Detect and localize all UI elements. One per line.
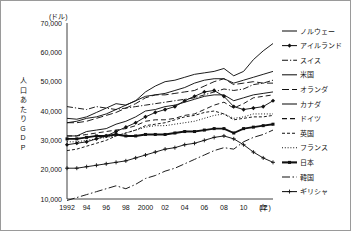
y-axis-title-char: G	[20, 125, 25, 132]
plot-area	[65, 44, 275, 201]
data-point-marker	[173, 146, 177, 150]
x-tick-label: 1992	[59, 204, 75, 211]
y-axis-title-char: た	[20, 106, 27, 113]
data-point-marker	[222, 134, 226, 138]
x-tick-label: 06	[200, 204, 208, 211]
data-point-marker	[262, 124, 265, 127]
legend-item-5[interactable]: カナダ	[282, 100, 321, 109]
y-tick-label: 40,000	[41, 108, 63, 115]
legend-label: 日本	[300, 158, 314, 167]
y-axis-tick-labels: 10,00020,00030,00040,00050,00060,00070,0…	[41, 20, 63, 203]
legend-item-4[interactable]: オランダ	[282, 85, 328, 94]
data-point-marker	[104, 162, 108, 166]
y-axis-title-char: り	[20, 115, 27, 122]
x-tick-label: 98	[122, 204, 130, 211]
legend-label: ノルウェー	[300, 28, 335, 35]
data-point-marker	[252, 126, 255, 129]
data-point-marker	[251, 106, 255, 110]
legend-item-8[interactable]: フランス	[282, 144, 328, 151]
data-point-marker	[272, 123, 275, 126]
legend-item-11[interactable]: ギリシャ	[282, 188, 328, 195]
data-point-marker	[164, 133, 167, 136]
x-tick-label: 10	[240, 204, 248, 211]
legend-label: カナダ	[300, 100, 321, 109]
legend-item-3[interactable]: 米国	[282, 70, 314, 79]
y-axis-title-char: D	[20, 134, 25, 141]
y-axis-title-char: P	[21, 144, 26, 151]
data-point-marker	[95, 134, 98, 137]
series-1	[65, 88, 275, 146]
data-point-marker	[65, 143, 69, 147]
data-point-marker	[134, 121, 138, 125]
legend: ノルウェーアイルランドスイス米国オランダカナダドイツ英国フランス日本韓国ギリシャ	[282, 28, 342, 196]
series-line	[67, 80, 273, 109]
data-point-marker	[153, 150, 157, 154]
y-axis-title: 人口あたりGDP	[20, 77, 27, 151]
data-point-marker	[261, 156, 265, 160]
data-point-marker	[94, 163, 98, 167]
legend-item-0[interactable]: ノルウェー	[282, 28, 335, 35]
legend-label: ギリシャ	[300, 188, 328, 195]
y-tick-label: 10,000	[41, 196, 63, 203]
data-point-marker	[212, 135, 216, 139]
y-axis-title-char: あ	[20, 96, 27, 103]
data-point-marker	[75, 137, 78, 140]
legend-label: 英国	[300, 129, 314, 138]
axis-lines	[67, 23, 273, 199]
data-point-marker	[114, 160, 118, 164]
legend-label: ドイツ	[300, 115, 321, 122]
y-axis-title-char: 人	[20, 77, 27, 84]
legend-label: スイス	[300, 57, 321, 64]
data-point-marker	[85, 165, 89, 169]
data-point-marker	[271, 99, 275, 103]
data-point-marker	[154, 133, 157, 136]
legend-item-9[interactable]: 日本	[282, 158, 314, 167]
legend-label: 韓国	[300, 173, 314, 182]
data-point-marker	[288, 190, 292, 194]
data-point-marker	[193, 141, 197, 145]
data-point-marker	[213, 127, 216, 130]
legend-item-6[interactable]: ドイツ	[282, 115, 321, 122]
data-point-marker	[124, 159, 128, 163]
data-point-marker	[115, 133, 118, 136]
y-tick-label: 60,000	[41, 49, 63, 56]
x-tick-label: 2000	[138, 204, 154, 211]
legend-label: フランス	[300, 144, 328, 151]
data-point-marker	[202, 90, 206, 94]
x-tick-label: 96	[102, 204, 110, 211]
data-point-marker	[85, 136, 88, 139]
data-point-marker	[193, 130, 196, 133]
legend-item-1[interactable]: アイルランド	[282, 42, 342, 49]
data-point-marker	[202, 138, 206, 142]
legend-label: 米国	[300, 70, 314, 79]
gdp-per-capita-line-chart: 10,00020,00030,00040,00050,00060,00070,0…	[1, 1, 351, 231]
data-point-marker	[134, 156, 138, 160]
data-point-marker	[144, 133, 147, 136]
series-3	[67, 71, 273, 122]
data-point-marker	[143, 115, 147, 119]
legend-item-10[interactable]: 韓国	[282, 173, 314, 182]
y-axis-unit-label: (ドル)	[49, 13, 68, 21]
y-tick-label: 20,000	[41, 166, 63, 173]
data-point-marker	[288, 161, 291, 164]
data-point-marker	[242, 127, 245, 130]
x-axis-tick-labels: 19929496982000020406081012	[59, 204, 267, 211]
x-axis-unit-label: (年)	[259, 203, 271, 212]
data-point-marker	[203, 129, 206, 132]
data-point-marker	[124, 134, 127, 137]
y-tick-label: 50,000	[41, 78, 63, 85]
data-point-marker	[105, 134, 108, 137]
legend-item-7[interactable]: 英国	[282, 129, 314, 138]
data-point-marker	[232, 137, 236, 141]
x-tick-label: 04	[181, 204, 189, 211]
series-line	[67, 71, 273, 122]
data-point-marker	[271, 160, 275, 164]
data-point-marker	[66, 137, 69, 140]
data-point-marker	[65, 166, 69, 170]
series-line	[67, 136, 273, 168]
y-axis-title-char: 口	[20, 87, 27, 94]
chart-frame: 10,00020,00030,00040,00050,00060,00070,0…	[0, 0, 351, 231]
legend-item-2[interactable]: スイス	[282, 57, 321, 64]
data-point-marker	[261, 105, 265, 109]
x-tick-label: 02	[161, 204, 169, 211]
